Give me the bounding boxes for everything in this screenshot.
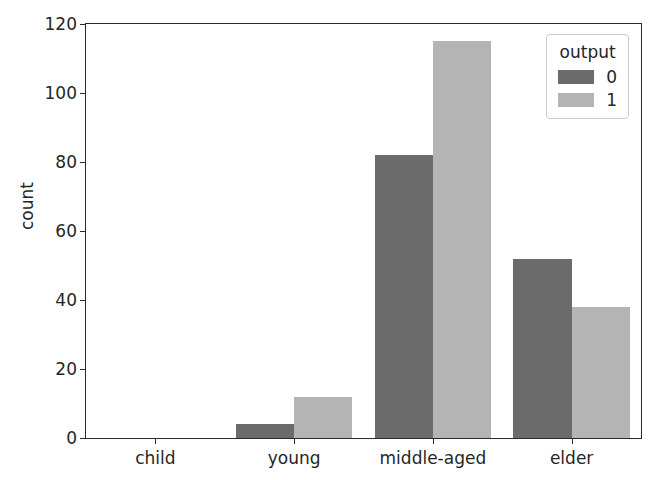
x-tick-label: child [135, 448, 175, 468]
legend-entry-0[interactable]: 0 [558, 67, 617, 87]
legend-label-1: 1 [606, 90, 617, 110]
legend-entries: 01 [558, 67, 617, 110]
plot-axes: 020406080100120 childyoungmiddle-agedeld… [85, 23, 642, 439]
y-axis-title: count [17, 182, 37, 230]
bar-young-series-1 [294, 397, 352, 438]
legend-swatch-1 [558, 93, 594, 107]
bar-elder-series-0 [513, 259, 571, 438]
x-tick-mark [294, 438, 295, 444]
legend-entry-1[interactable]: 1 [558, 90, 617, 110]
y-tick-mark [80, 369, 86, 370]
y-tick-label: 0 [66, 428, 77, 448]
legend-label-0: 0 [606, 67, 617, 87]
bar-middle-aged-series-1 [433, 41, 491, 438]
bar-young-series-0 [236, 424, 294, 438]
x-tick-label: elder [550, 448, 593, 468]
y-tick-mark [80, 162, 86, 163]
legend-swatch-0 [558, 70, 594, 84]
y-tick-label: 80 [55, 152, 77, 172]
x-tick-label: young [268, 448, 321, 468]
y-tick-mark [80, 93, 86, 94]
y-tick-label: 20 [55, 359, 77, 379]
x-tick-mark [572, 438, 573, 444]
y-tick-label: 40 [55, 290, 77, 310]
x-tick-mark [155, 438, 156, 444]
y-tick-mark [80, 24, 86, 25]
y-tick-label: 100 [45, 83, 77, 103]
legend[interactable]: output 01 [546, 34, 629, 119]
bar-elder-series-1 [572, 307, 630, 438]
y-tick-label: 120 [45, 14, 77, 34]
x-tick-label: middle-aged [380, 448, 487, 468]
legend-title: output [558, 42, 617, 62]
y-tick-mark [80, 438, 86, 439]
x-tick-mark [433, 438, 434, 444]
bar-middle-aged-series-0 [375, 155, 433, 438]
y-tick-mark [80, 231, 86, 232]
y-tick-mark [80, 300, 86, 301]
y-tick-label: 60 [55, 221, 77, 241]
figure-canvas: count 020406080100120 childyoungmiddle-a… [0, 0, 663, 480]
